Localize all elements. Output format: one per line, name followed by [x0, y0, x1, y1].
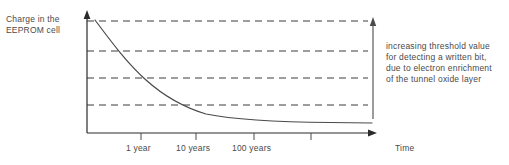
y-axis-label: Charge in the EEPROM cell: [6, 14, 98, 36]
x-tick-label-100-years: 100 years: [232, 143, 271, 154]
x-axis: [87, 130, 377, 137]
threshold-arrowhead: [370, 17, 376, 26]
x-axis-title: Time: [395, 143, 414, 154]
threshold-annotation-text: increasing threshold value for detecting…: [386, 41, 509, 85]
x-tick-label-10-years: 10 years: [176, 143, 210, 154]
x-axis-ticks: [141, 133, 311, 140]
x-tick-label-1-year: 1 year: [126, 143, 151, 154]
threshold-arrow: [370, 17, 376, 119]
charge-decay-curve: [95, 20, 372, 123]
x-axis-arrowhead: [368, 130, 377, 137]
eeprom-charge-decay-figure: Charge in the EEPROM cell increasing thr…: [0, 0, 509, 165]
